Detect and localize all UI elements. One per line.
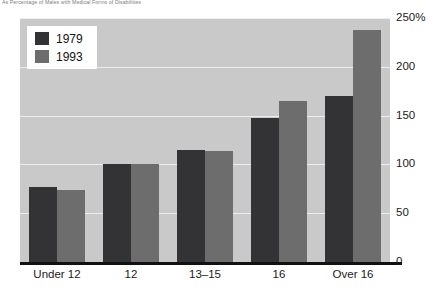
x-axis-tick-label: Over 16 — [333, 268, 374, 280]
legend-item-1979: 1979 — [35, 32, 83, 45]
y-axis-tick-label: 50 — [396, 206, 409, 218]
bar-1979-over-16 — [325, 96, 353, 262]
bar-group — [251, 101, 307, 262]
bar-group — [103, 164, 159, 262]
x-axis-line — [20, 262, 402, 265]
x-axis-tick-label: 16 — [273, 268, 286, 280]
y-axis-tick-label: 200 — [396, 60, 415, 72]
y-axis-tick-label: 250% — [396, 11, 425, 23]
legend-swatch-icon — [35, 50, 49, 63]
bar-1979-under-12 — [29, 187, 57, 262]
y-axis-tick-label: 0 — [396, 255, 402, 267]
bar-chart: 050100150200250% Under 121213–1516Over 1… — [0, 0, 433, 293]
bar-1993-12 — [131, 164, 159, 262]
bar-1979-16 — [251, 118, 279, 262]
x-axis-tick-label: 12 — [125, 268, 138, 280]
y-axis-tick-label: 100 — [396, 157, 415, 169]
legend-swatch-icon — [35, 32, 49, 45]
bar-group — [29, 187, 85, 262]
bar-group — [325, 30, 381, 262]
bar-1979-13–15 — [177, 150, 205, 262]
bar-1979-12 — [103, 164, 131, 262]
bar-1993-under-12 — [57, 190, 85, 262]
legend-label: 1993 — [56, 51, 83, 63]
legend-item-1993: 1993 — [35, 50, 83, 63]
legend-label: 1979 — [56, 33, 83, 45]
x-axis-tick-label: Under 12 — [33, 268, 80, 280]
y-axis-tick-label: 150 — [396, 109, 415, 121]
chart-legend: 19791993 — [27, 26, 97, 69]
bar-1993-13–15 — [205, 151, 233, 262]
bar-1993-over-16 — [353, 30, 381, 262]
x-axis-tick-label: 13–15 — [189, 268, 221, 280]
bar-group — [177, 150, 233, 262]
bar-1993-16 — [279, 101, 307, 262]
